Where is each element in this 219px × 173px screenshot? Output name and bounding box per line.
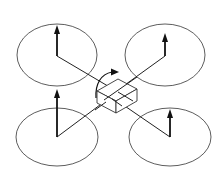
arrowhead-icon [54,89,60,98]
quadrotor-diagram [0,0,219,173]
arrowhead-icon [167,109,173,118]
arrowhead-icon [111,69,119,76]
arrowhead-icon [162,33,168,42]
arrowhead-icon [54,25,60,34]
thrust-arrows [54,25,173,137]
